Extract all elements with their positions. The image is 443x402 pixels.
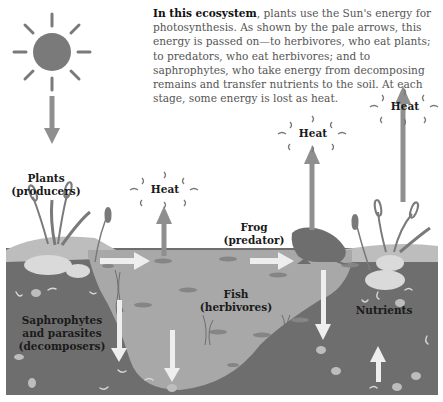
- frog-label: Frog (predator): [214, 221, 294, 247]
- sunlight-arrow-icon: [44, 96, 60, 144]
- decomposers-label: Saphrophytes and parasites (decomposers): [18, 314, 106, 353]
- caption-title: In this ecosystem: [153, 7, 257, 19]
- fish-role: (herbivores): [196, 301, 276, 314]
- plants-role: (producers): [6, 185, 86, 198]
- nutrients-label: Nutrients: [352, 304, 416, 317]
- decomposers-line-1: Saphrophytes: [18, 314, 106, 327]
- decomposers-line-2: and parasites: [18, 327, 106, 340]
- heat-label-2: Heat: [297, 127, 329, 140]
- frog-name: Frog: [214, 221, 294, 234]
- sun-icon: [14, 14, 90, 90]
- decomposers-line-3: (decomposers): [18, 340, 106, 353]
- fish-name: Fish: [196, 288, 276, 301]
- diagram-caption: In this ecosystem, plants use the Sun's …: [153, 6, 443, 105]
- plants-name: Plants: [6, 172, 86, 185]
- heat-label-1: Heat: [149, 183, 181, 196]
- fish-label: Fish (herbivores): [196, 288, 276, 314]
- caption-body: , plants use the Sun's energy for photos…: [153, 7, 431, 104]
- frog-role: (predator): [214, 234, 294, 247]
- heat-label-3: Heat: [389, 100, 421, 113]
- plants-label: Plants (producers): [6, 172, 86, 198]
